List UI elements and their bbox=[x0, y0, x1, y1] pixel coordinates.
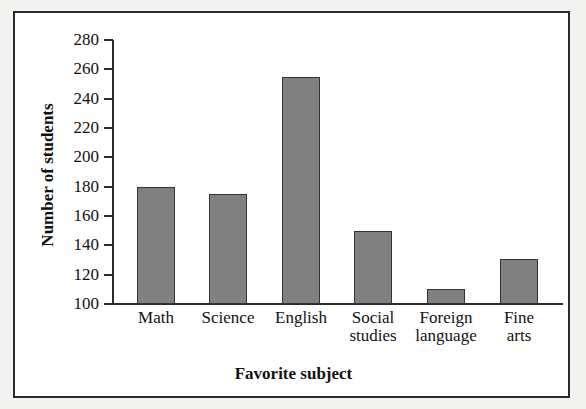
y-axis-tick-label: 200 bbox=[54, 148, 99, 165]
y-axis-tick-label: 100 bbox=[54, 295, 99, 312]
y-axis-tick bbox=[104, 98, 113, 100]
x-axis-title: Favorite subject bbox=[15, 364, 572, 384]
bar-chart-plot-area: Number of students 100120140160180200220… bbox=[15, 13, 572, 400]
bar bbox=[282, 77, 320, 304]
y-axis-tick bbox=[104, 244, 113, 246]
y-axis-line bbox=[112, 40, 114, 305]
y-axis-tick bbox=[104, 39, 113, 41]
y-axis-tick-label: 140 bbox=[54, 236, 99, 253]
bar bbox=[427, 289, 465, 304]
y-axis-tick bbox=[104, 156, 113, 158]
y-axis-tick bbox=[104, 186, 113, 188]
bar bbox=[500, 259, 538, 304]
y-axis-tick bbox=[104, 68, 113, 70]
y-axis-tick-label: 120 bbox=[54, 266, 99, 283]
y-axis-tick-label: 240 bbox=[54, 90, 99, 107]
y-axis-tick bbox=[104, 215, 113, 217]
bar bbox=[137, 187, 175, 304]
y-axis-tick-label: 160 bbox=[54, 207, 99, 224]
y-axis-tick-label: 220 bbox=[54, 119, 99, 136]
y-axis-tick bbox=[104, 127, 113, 129]
y-axis-tick-label: 280 bbox=[54, 31, 99, 48]
bar bbox=[354, 231, 392, 304]
y-axis-tick bbox=[104, 274, 113, 276]
chart-figure-frame: Number of students 100120140160180200220… bbox=[13, 11, 570, 398]
x-axis-category-label: Fine arts bbox=[476, 309, 562, 346]
y-axis-tick-label: 260 bbox=[54, 60, 99, 77]
bar bbox=[209, 194, 247, 304]
y-axis-tick-label: 180 bbox=[54, 178, 99, 195]
